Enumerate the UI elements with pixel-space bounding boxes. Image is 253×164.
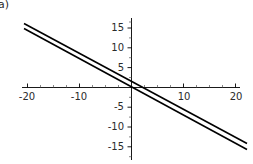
- data-line-1: [24, 29, 247, 150]
- y-tick-label-15: 15: [104, 23, 124, 33]
- x-tick-label--10: -10: [71, 92, 87, 102]
- figure-panel: a): [0, 0, 253, 164]
- x-tick-label-10: 10: [178, 92, 191, 102]
- y-tick-label--10: -10: [100, 122, 124, 132]
- x-tick-label--20: -20: [19, 92, 35, 102]
- y-tick-label--5: -5: [100, 102, 124, 112]
- data-line-2: [24, 24, 247, 144]
- y-tick-label-5: 5: [104, 63, 124, 73]
- x-tick-label-20: 20: [230, 92, 243, 102]
- y-tick-label-10: 10: [104, 43, 124, 53]
- line-plot: [0, 0, 253, 164]
- y-tick-label--15: -15: [100, 142, 124, 152]
